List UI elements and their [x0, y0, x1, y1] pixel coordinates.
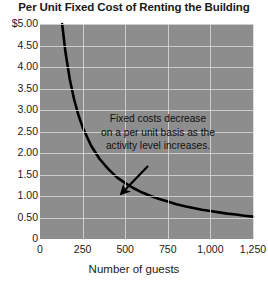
annotation-line: Fixed costs decrease — [78, 112, 238, 126]
x-tick-label: 0 — [18, 243, 62, 255]
x-tick-label: 500 — [103, 243, 147, 255]
x-axis-label: Number of guests — [0, 263, 268, 275]
chart-figure: Per Unit Fixed Cost of Renting the Build… — [0, 0, 268, 284]
annotation-arrow-icon — [110, 160, 170, 205]
x-tick-label: 250 — [61, 243, 105, 255]
x-tick-label: 1,250 — [231, 243, 268, 255]
annotation-line: activity level increases. — [78, 139, 238, 153]
x-tick-label: 1,000 — [188, 243, 232, 255]
annotation-text: Fixed costs decreaseon a per unit basis … — [78, 112, 238, 153]
annotation-line: on a per unit basis as the — [78, 126, 238, 140]
x-tick-label: 750 — [146, 243, 190, 255]
